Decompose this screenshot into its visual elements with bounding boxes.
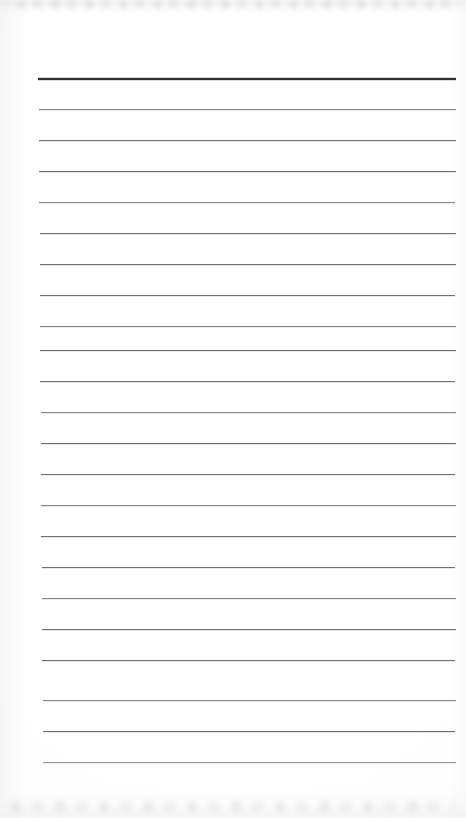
page-text-content <box>38 78 456 768</box>
scanned-page <box>0 0 466 818</box>
